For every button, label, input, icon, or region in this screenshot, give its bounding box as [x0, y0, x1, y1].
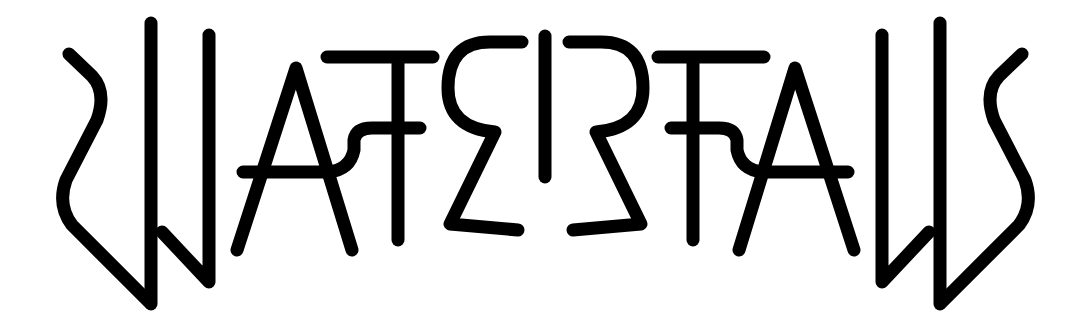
letter-w	[63, 23, 209, 304]
logo-graphic	[0, 0, 1079, 327]
mirrored-half	[569, 23, 1028, 304]
letter-e	[448, 42, 522, 230]
